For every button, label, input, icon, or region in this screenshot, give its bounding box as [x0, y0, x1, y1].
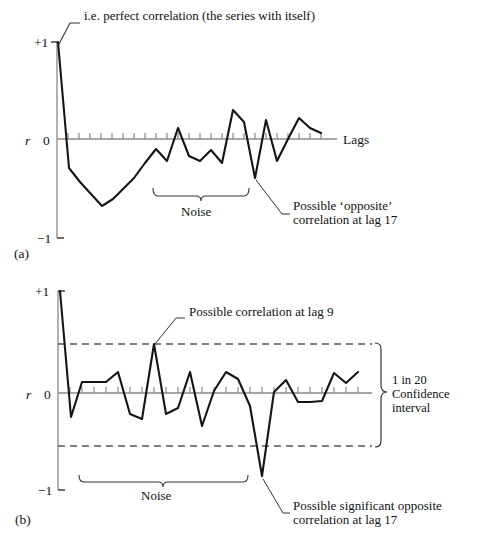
panel-b-significant-opposite-line1: Possible significant opposite [293, 498, 442, 513]
panel-a-ytick-plus1: +1 [34, 35, 48, 50]
panel-a-ytick-zero: 0 [43, 133, 50, 148]
panel-b-confidence-line3: interval [392, 401, 431, 415]
panel-a-ytick-minus1: −1 [37, 231, 51, 246]
panel-b: +1 0 −1 r Possible correlation at lag 9 … [15, 284, 450, 527]
panel-b-confidence-bracket: 1 in 20 Confidence interval [375, 343, 450, 447]
panel-a-opposite-correlation-line1: Possible ‘opposite’ [293, 198, 392, 213]
panel-b-annotation-correlation-lag-9: Possible correlation at lag 9 [155, 304, 333, 344]
panel-a-x-ticks [68, 133, 321, 139]
panel-b-confidence-line1: 1 in 20 [392, 373, 427, 387]
panel-a-x-axis-label: Lags [343, 132, 369, 147]
panel-a-noise-label: Noise [181, 204, 212, 219]
panel-a-series [58, 42, 321, 206]
panel-b-label: (b) [15, 512, 31, 527]
panel-b-noise-label: Noise [141, 488, 172, 503]
panel-a: i.e. perfect correlation (the series wit… [14, 8, 398, 261]
panel-a-opposite-correlation-line2: correlation at lag 17 [293, 212, 398, 227]
panel-b-ytick-plus1: +1 [35, 284, 49, 299]
panel-b-y-axis-label: r [26, 387, 32, 402]
panel-a-annotation-perfect-correlation: i.e. perfect correlation (the series wit… [59, 8, 315, 44]
panel-a-label: (a) [14, 246, 29, 261]
panel-a-annotation-opposite-correlation: Possible ‘opposite’ correlation at lag 1… [256, 180, 398, 227]
panel-b-ytick-minus1: −1 [38, 483, 52, 498]
correlogram-figure: i.e. perfect correlation (the series wit… [0, 0, 481, 539]
panel-b-confidence-line2: Confidence [392, 387, 450, 401]
panel-b-significant-opposite-line2: correlation at lag 17 [293, 512, 398, 527]
panel-a-noise-bracket: Noise [153, 188, 249, 219]
panel-b-correlation-lag-9-text: Possible correlation at lag 9 [189, 304, 333, 319]
panel-b-annotation-significant-opposite: Possible significant opposite correlatio… [263, 479, 442, 527]
panel-b-ytick-zero: 0 [44, 387, 51, 402]
panel-a-y-axis-label: r [25, 133, 31, 148]
panel-a-perfect-correlation-text: i.e. perfect correlation (the series wit… [84, 8, 315, 23]
panel-b-noise-bracket: Noise [79, 475, 248, 503]
